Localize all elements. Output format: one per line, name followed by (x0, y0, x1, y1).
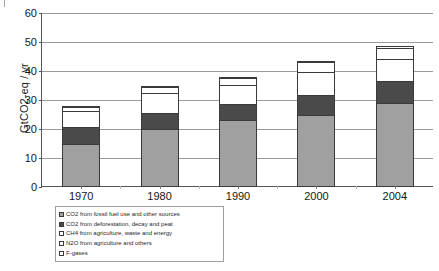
legend-item[interactable]: CH4 from agriculture, waste and energy (59, 229, 219, 239)
legend-item-label: CO2 from deforestation, decay and peat (66, 220, 173, 229)
legend-swatch-icon (59, 241, 64, 246)
x-tick-label: 1980 (147, 190, 171, 202)
bar-segment[interactable] (219, 104, 257, 121)
x-minor-tick-mark (120, 186, 121, 189)
y-tick-mark (39, 100, 42, 101)
gridline (42, 13, 433, 14)
bar-segment[interactable] (62, 127, 100, 144)
bar-segment[interactable] (219, 120, 257, 187)
bar-segment[interactable] (141, 113, 179, 130)
bar-segment[interactable] (297, 95, 335, 115)
page-edge-mark (4, 0, 5, 7)
plot-frame: 010203040506019701980199020002004 (41, 13, 433, 187)
y-tick-label: 50 (25, 36, 37, 48)
legend-item[interactable]: CO2 from deforestation, decay and peat (59, 220, 219, 230)
x-tick-mark (160, 186, 161, 189)
x-minor-tick-mark (199, 186, 200, 189)
bar-stack[interactable] (297, 61, 335, 186)
gridline (42, 71, 433, 72)
x-minor-tick-mark (277, 186, 278, 189)
y-tick-label: 60 (25, 7, 37, 19)
x-tick-label: 2004 (383, 190, 407, 202)
chart-page: GtCO2-eq / yr 01020304050601970198019902… (0, 0, 439, 271)
y-tick-mark (39, 187, 42, 188)
bar-stack[interactable] (376, 46, 414, 186)
legend-item-label: N2O from agriculture and others (66, 239, 152, 248)
plot-area: 010203040506019701980199020002004 (41, 13, 433, 187)
legend-swatch-icon (59, 212, 64, 217)
bar-segment[interactable] (376, 59, 414, 82)
bar-stack[interactable] (219, 77, 257, 186)
y-tick-label: 10 (25, 152, 37, 164)
bar-segment[interactable] (376, 81, 414, 104)
legend-swatch-icon (59, 251, 64, 256)
chart-legend: CO2 from fossil fuel use and other sourc… (55, 206, 224, 262)
bar-stack[interactable] (62, 106, 100, 186)
legend-item-label: F-gases (66, 249, 88, 258)
legend-item-label: CO2 from fossil fuel use and other sourc… (66, 210, 180, 219)
y-tick-label: 40 (25, 65, 37, 77)
x-tick-mark (81, 186, 82, 189)
bar-segment[interactable] (62, 111, 100, 128)
x-tick-mark (316, 186, 317, 189)
y-tick-mark (39, 129, 42, 130)
bar-segment[interactable] (297, 72, 335, 97)
y-tick-mark (39, 71, 42, 72)
y-tick-label: 20 (25, 123, 37, 135)
legend-item[interactable]: N2O from agriculture and others (59, 239, 219, 249)
legend-swatch-icon (59, 231, 64, 236)
x-tick-label: 1990 (226, 190, 250, 202)
bar-segment[interactable] (376, 103, 414, 187)
x-tick-label: 1970 (69, 190, 93, 202)
gridline (42, 42, 433, 43)
legend-item-label: CH4 from agriculture, waste and energy (66, 229, 172, 238)
x-tick-label: 2000 (304, 190, 328, 202)
x-tick-mark (238, 186, 239, 189)
bar-segment[interactable] (62, 144, 100, 188)
y-tick-mark (39, 13, 42, 14)
bar-segment[interactable] (141, 129, 179, 187)
legend-item[interactable]: F-gases (59, 248, 219, 258)
y-tick-mark (39, 158, 42, 159)
y-tick-label: 0 (31, 181, 37, 193)
bar-segment[interactable] (219, 85, 257, 105)
x-minor-tick-mark (356, 186, 357, 189)
bar-stack[interactable] (141, 86, 179, 186)
y-tick-label: 30 (25, 94, 37, 106)
bar-segment[interactable] (297, 115, 335, 188)
legend-swatch-icon (59, 222, 64, 227)
bar-segment[interactable] (141, 93, 179, 113)
y-tick-mark (39, 42, 42, 43)
legend-item[interactable]: CO2 from fossil fuel use and other sourc… (59, 210, 219, 220)
x-tick-mark (395, 186, 396, 189)
